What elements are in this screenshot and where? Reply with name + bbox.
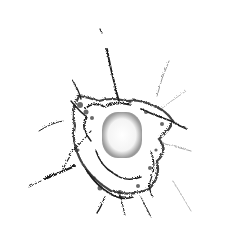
bullet-hole-image xyxy=(0,0,232,250)
bullet-hole xyxy=(102,112,142,158)
cracked-glass-graphic xyxy=(0,0,232,250)
